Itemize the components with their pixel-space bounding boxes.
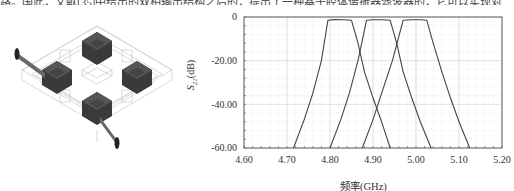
resonator-bottom <box>82 92 112 125</box>
plot-area <box>185 8 514 158</box>
resonator-right <box>122 61 152 94</box>
s21-chart: S21(dB) 0 -20.00 -40.00 -60.00 4.60 4.70… <box>185 8 514 191</box>
feed-line-input <box>15 48 46 78</box>
s21-curve <box>294 20 391 148</box>
filter-3d-model-image <box>0 12 185 187</box>
resonator-top <box>82 32 112 65</box>
x-axis-label: 频率(GHz) <box>340 178 387 191</box>
truncated-body-text: 路。国此，文献[35]中给出的双相输出结构之后的，提出了一种基于腔体谐振器滤波器… <box>0 0 514 5</box>
resonator-left <box>42 61 72 94</box>
filter-3d-model-icon <box>0 12 185 187</box>
feed-line-output <box>100 117 120 149</box>
